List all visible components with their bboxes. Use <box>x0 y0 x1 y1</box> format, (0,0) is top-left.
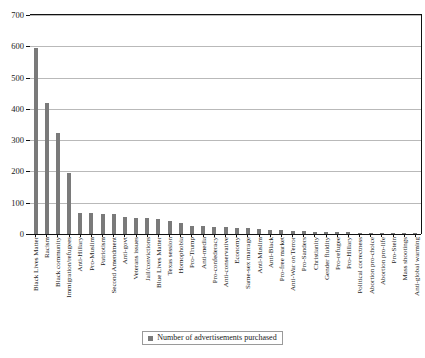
x-label-slot: Anti-govt <box>120 237 131 319</box>
bar-slot <box>265 15 276 234</box>
bar-slot <box>198 15 209 234</box>
x-axis-category-label: Pro-Sanders <box>301 237 308 271</box>
x-axis-category-label: Christianity <box>312 237 319 270</box>
bar-slot <box>287 15 298 234</box>
x-axis-category-label: Black community <box>55 237 62 287</box>
bar-slot <box>399 15 410 234</box>
x-label-slot: Christianity <box>310 237 321 319</box>
x-axis-category-label: Patriotism <box>99 237 106 266</box>
x-axis-category-label: Abortion pro-choice <box>368 237 375 294</box>
x-label-slot: Pro-refugee <box>332 237 343 319</box>
x-label-slot: Anti-Muslim <box>254 237 265 319</box>
bar <box>145 218 149 234</box>
plot-area: 0100200300400500600700 <box>30 14 422 234</box>
x-axis-category-label: Economy <box>234 237 241 264</box>
x-label-slot: Pro-free market <box>276 237 287 319</box>
bar-slot <box>153 15 164 234</box>
bar-slot <box>242 15 253 234</box>
bar-slot <box>108 15 119 234</box>
bar <box>156 219 160 234</box>
x-label-slot: Pro-Muslim <box>86 237 97 319</box>
bar-slot <box>309 15 320 234</box>
x-axis-category-label: Pro-confederacy <box>211 237 218 283</box>
x-axis-category-label: Same-sex marrage <box>245 237 252 289</box>
y-axis-tick-label: 700 <box>0 11 24 20</box>
legend: Number of advertisements purchased <box>0 331 425 345</box>
x-axis-category-label: Anti-War on Terror <box>290 237 297 291</box>
x-label-slot: Immigration/refugees <box>64 237 75 319</box>
x-axis-category-label: Jail/convictions <box>144 237 151 281</box>
bar-slot <box>253 15 264 234</box>
bar <box>168 221 172 234</box>
bars-container <box>30 15 421 234</box>
bar <box>112 214 116 234</box>
bar <box>34 48 38 234</box>
x-axis-category-label: Gender fluidity <box>323 237 330 280</box>
x-label-slot: Anti-global warming <box>411 237 422 319</box>
x-label-slot: Pro-Trump <box>187 237 198 319</box>
bar-slot <box>410 15 421 234</box>
x-axis-category-label: Pro-refugee <box>335 237 342 270</box>
x-label-slot: Same-sex marrage <box>243 237 254 319</box>
bar <box>134 218 138 234</box>
x-axis-category-label: Anti-global warming <box>413 237 420 296</box>
bar-slot <box>75 15 86 234</box>
bar-slot <box>376 15 387 234</box>
x-axis-category-label: Pro-free market <box>279 237 286 281</box>
bar <box>101 214 105 234</box>
bar-slot <box>320 15 331 234</box>
x-axis-category-label: Mass shootings <box>402 237 409 280</box>
x-label-slot: Homophobia <box>176 237 187 319</box>
bar <box>190 226 194 234</box>
bar-slot <box>231 15 242 234</box>
x-label-slot: Blue Lives Matter <box>153 237 164 319</box>
bar-slot <box>142 15 153 234</box>
x-axis-category-label: Immigration/refugees <box>66 237 73 298</box>
y-axis-tick-label: 0 <box>0 230 24 239</box>
bar-slot <box>298 15 309 234</box>
x-label-slot: Economy <box>232 237 243 319</box>
bar <box>56 133 60 234</box>
bar-chart-figure: 0100200300400500600700 Black Lives Matte… <box>0 0 425 358</box>
bar-slot <box>276 15 287 234</box>
bar-slot <box>86 15 97 234</box>
x-axis-category-label: Political correctness <box>357 237 364 294</box>
x-label-slot: Anti-Black <box>265 237 276 319</box>
bar-slot <box>343 15 354 234</box>
x-label-slot: Anti-War on Terror <box>288 237 299 319</box>
x-axis-category-label: Pro-Hillary <box>346 237 353 269</box>
x-axis-category-label: Abortion pro-life <box>379 237 386 285</box>
x-axis-category-label: Anti-media <box>200 237 207 269</box>
y-axis-tick-label: 300 <box>0 136 24 145</box>
x-axis-category-label: Homophobia <box>178 237 185 274</box>
y-axis-tick-label: 500 <box>0 74 24 83</box>
x-axis-category-label: Pro-Muslim <box>88 237 95 271</box>
bar <box>179 223 183 234</box>
x-axis-category-label: Anti-Muslim <box>256 237 263 274</box>
x-axis-category-label: Anti-Hillary <box>77 237 84 272</box>
x-label-slot: Mass shootings <box>400 237 411 319</box>
legend-swatch-icon <box>148 336 153 341</box>
x-axis-category-label: Anti-Black <box>267 237 274 268</box>
bar <box>224 227 228 234</box>
bar-slot <box>131 15 142 234</box>
bar <box>123 217 127 234</box>
bar-slot <box>30 15 41 234</box>
x-label-slot: Second Amendment <box>108 237 119 319</box>
x-axis-category-label: Racism <box>43 237 50 258</box>
x-label-slot: Gender fluidity <box>321 237 332 319</box>
x-label-slot: Political correctness <box>355 237 366 319</box>
x-label-slot: Pro-confederacy <box>209 237 220 319</box>
x-label-slot: Black Lives Matter <box>30 237 41 319</box>
x-axis-category-label: Blue Lives Matter <box>155 237 162 288</box>
x-axis-category-label: Veterans issues <box>133 237 140 280</box>
x-axis-category-label: Anti-conservative <box>223 237 230 287</box>
bar-slot <box>64 15 75 234</box>
bar-slot <box>365 15 376 234</box>
x-label-slot: Abortion pro-choice <box>366 237 377 319</box>
x-label-slot: Anti-media <box>198 237 209 319</box>
bar-slot <box>354 15 365 234</box>
bar-slot <box>332 15 343 234</box>
x-axis-category-label: Pro-Stein <box>391 237 398 263</box>
bar <box>67 173 71 234</box>
